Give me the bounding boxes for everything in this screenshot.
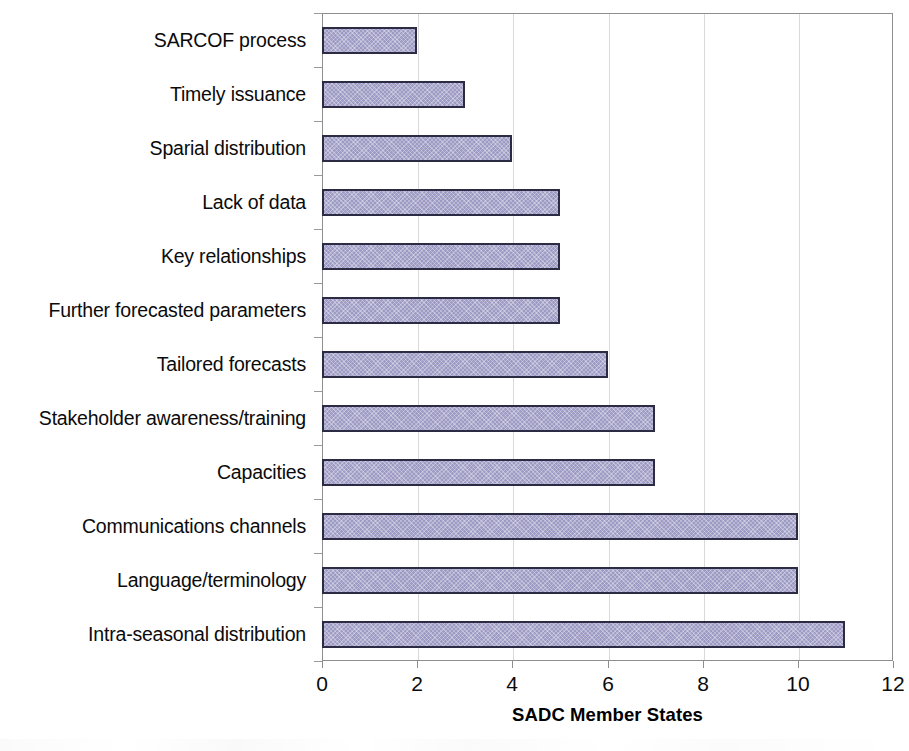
bar-key-relationships[interactable] (322, 243, 560, 270)
bars-layer (322, 13, 893, 661)
bar-row (322, 499, 893, 553)
x-tick (512, 661, 513, 668)
bar-stakeholder-awareness-training[interactable] (322, 405, 655, 432)
bar-row (322, 337, 893, 391)
scan-artifact (0, 739, 900, 751)
category-label-language-terminology: Language/terminology (117, 553, 306, 607)
x-tick (322, 661, 323, 668)
bar-row (322, 445, 893, 499)
bar-tailored-forecasts[interactable] (322, 351, 608, 378)
bar-row (322, 175, 893, 229)
bar-row (322, 553, 893, 607)
category-label-timely-issuance: Timely issuance (170, 67, 306, 121)
category-label-capacities: Capacities (217, 445, 306, 499)
x-tick-label-8: 8 (673, 672, 733, 696)
x-tick (417, 661, 418, 668)
x-tick (798, 661, 799, 668)
category-label-communications-channels: Communications channels (82, 499, 306, 553)
x-tick (608, 661, 609, 668)
x-tick-label-4: 4 (482, 672, 542, 696)
x-tick (703, 661, 704, 668)
bar-row (322, 121, 893, 175)
category-label-further-forecasted-parameters: Further forecasted parameters (48, 283, 306, 337)
bar-row (322, 607, 893, 661)
bar-timely-issuance[interactable] (322, 81, 465, 108)
bar-sparial-distribution[interactable] (322, 135, 512, 162)
x-tick (893, 661, 894, 668)
bar-capacities[interactable] (322, 459, 655, 486)
bar-row (322, 229, 893, 283)
x-tick-label-0: 0 (292, 672, 352, 696)
bar-sarcof-process[interactable] (322, 27, 417, 54)
category-label-key-relationships: Key relationships (161, 229, 306, 283)
category-label-tailored-forecasts: Tailored forecasts (157, 337, 306, 391)
x-tick-label-2: 2 (387, 672, 447, 696)
bar-lack-of-data[interactable] (322, 189, 560, 216)
y-tick (314, 661, 322, 662)
bar-row (322, 283, 893, 337)
x-tick-label-12: 12 (863, 672, 909, 696)
bar-further-forecasted-parameters[interactable] (322, 297, 560, 324)
category-label-sparial-distribution: Sparial distribution (150, 121, 306, 175)
bar-row (322, 13, 893, 67)
category-labels: SARCOF process Timely issuance Sparial d… (0, 13, 316, 661)
category-label-sarcof-process: SARCOF process (154, 13, 306, 67)
bar-language-terminology[interactable] (322, 567, 798, 594)
x-tick-label-6: 6 (578, 672, 638, 696)
category-label-lack-of-data: Lack of data (202, 175, 306, 229)
bar-row (322, 391, 893, 445)
category-label-intra-seasonal-distribution: Intra-seasonal distribution (88, 607, 306, 661)
bar-communications-channels[interactable] (322, 513, 798, 540)
category-label-stakeholder-awareness-training: Stakeholder awareness/training (39, 391, 306, 445)
x-axis-title: SADC Member States (322, 704, 893, 726)
x-tick-label-10: 10 (768, 672, 828, 696)
bar-intra-seasonal-distribution[interactable] (322, 621, 845, 648)
bar-row (322, 67, 893, 121)
